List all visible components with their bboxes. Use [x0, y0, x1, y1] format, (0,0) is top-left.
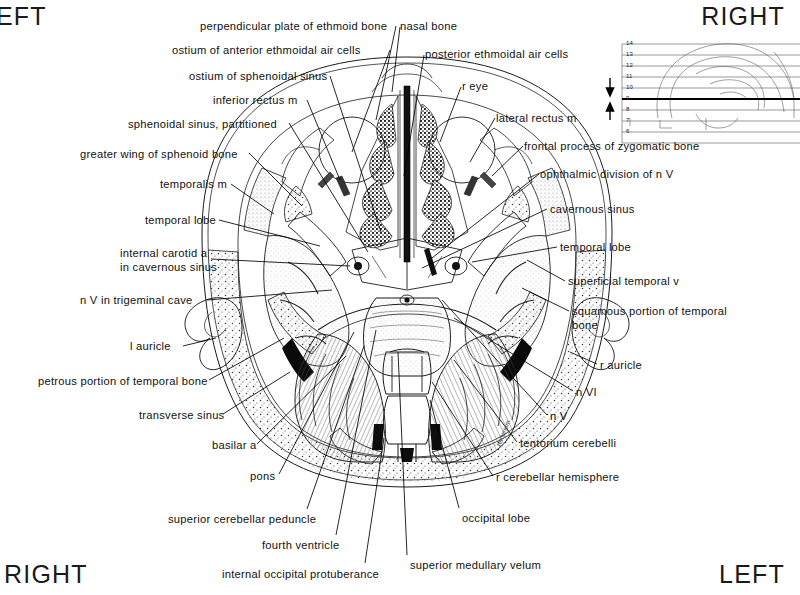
anat-label-r-cerebellar-hemisphere: r cerebellar hemisphere	[496, 471, 619, 485]
anat-label-ophthalmic-division-of-n-v: ophthalmic division of n V	[540, 168, 673, 182]
key-level-8: 8	[626, 106, 630, 112]
anat-label-transverse-sinus: transverse sinus	[139, 409, 224, 423]
anat-label-r-auricle: r auricle	[600, 359, 642, 373]
anat-label-inferior-rectus-m: inferior rectus m	[213, 94, 297, 108]
anat-label-superior-cerebellar-peduncle: superior cerebellar peduncle	[168, 513, 316, 527]
anat-label-ostium-of-anterior-ethmoidal-air-cells: ostium of anterior ethmoidal air cells	[172, 44, 361, 58]
anat-label-nasal-bone: nasal bone	[400, 20, 457, 34]
key-level-11: 11	[626, 73, 633, 79]
anat-label-internal-carotid-a: internal carotid a	[120, 247, 207, 261]
key-level-12: 12	[626, 62, 633, 68]
key-level-9: 9	[626, 95, 630, 101]
anat-label-petrous-portion-of-temporal-bone: petrous portion of temporal bone	[38, 375, 208, 389]
anat-label-squamous-portion-of-temporal: squamous portion of temporal	[572, 305, 727, 319]
anat-label-r-eye: r eye	[462, 80, 488, 94]
key-level-7: 7	[626, 117, 630, 123]
anat-label-temporal-lobe: temporal lobe	[560, 241, 631, 255]
anat-label-superior-medullary-velum: superior medullary velum	[410, 559, 541, 573]
anat-label-lateral-rectus-m: lateral rectus m	[496, 112, 576, 126]
anat-label-occipital-lobe: occipital lobe	[462, 512, 530, 526]
anat-label-perpendicular-plate-of-ethmoid-bone: perpendicular plate of ethmoid bone	[200, 20, 387, 34]
anat-label-l-auricle: l auricle	[130, 340, 171, 354]
anat-label-pons: pons	[250, 470, 275, 484]
anat-label-frontal-process-of-zygomatic-bone: frontal process of zygomatic bone	[524, 140, 700, 154]
key-level-13: 13	[626, 51, 633, 57]
anat-label-bone: bone	[572, 319, 598, 333]
anat-label-in-cavernous-sinus: in cavernous sinus	[120, 261, 217, 275]
anat-label-superficial-temporal-v: superficial temporal v	[568, 275, 679, 289]
key-level-6: 6	[626, 128, 630, 134]
anat-label-basilar-a: basilar a	[212, 439, 257, 453]
anat-label-cavernous-sinus: cavernous sinus	[550, 203, 635, 217]
anat-label-temporalis-m: temporalis m	[160, 178, 227, 192]
anat-label-posterior-ethmoidal-air-cells: posterior ethmoidal air cells	[425, 48, 568, 62]
anat-label-internal-occipital-protuberance: internal occipital protuberance	[222, 568, 379, 582]
anat-label-greater-wing-of-sphenoid-bone: greater wing of sphenoid bone	[80, 148, 238, 162]
anat-label-n-v: n V	[550, 410, 568, 424]
anat-label-sphenoidal-sinus-partitioned: sphenoidal sinus, partitioned	[128, 118, 277, 132]
anat-label-tentorium-cerebelli: tentorium cerebelli	[520, 437, 616, 451]
anat-label-n-vi: n VI	[576, 386, 597, 400]
level-direction-arrows	[606, 78, 613, 120]
anat-label-n-v-in-trigeminal-cave: n V in trigeminal cave	[80, 294, 192, 308]
key-level-10: 10	[626, 84, 633, 90]
anat-label-ostium-of-sphenoidal-sinus: ostium of sphenoidal sinus	[189, 70, 327, 84]
anat-label-fourth-ventricle: fourth ventricle	[262, 539, 339, 553]
key-level-14: 14	[626, 40, 633, 46]
anat-label-temporal-lobe: temporal lobe	[145, 214, 216, 228]
